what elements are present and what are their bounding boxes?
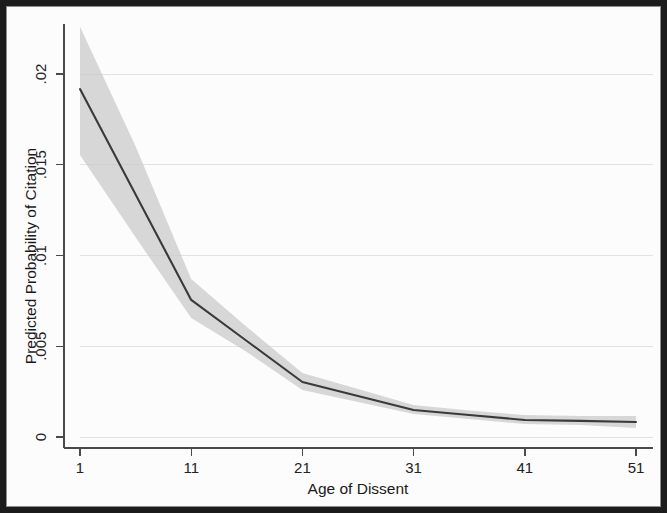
chart-canvas: 0.005.01.015.02 11121314151 Predicted Pr… (0, 0, 667, 513)
y-axis-title: Predicted Probability of Citation (22, 148, 39, 364)
x-tick-label: 21 (294, 459, 311, 476)
confidence-band-group (80, 27, 636, 428)
x-axis-title: Age of Dissent (308, 480, 409, 497)
confidence-interval-band (80, 27, 636, 428)
x-tick-label: 31 (405, 459, 422, 476)
x-tick-label: 1 (76, 459, 84, 476)
x-axis-ticks (80, 448, 636, 456)
x-tick-label: 41 (516, 459, 533, 476)
x-tick-label: 11 (183, 459, 199, 476)
figure-container: 0.005.01.015.02 11121314151 Predicted Pr… (0, 0, 667, 513)
y-tick-label: .02 (32, 64, 49, 85)
x-tick-label: 51 (628, 459, 645, 476)
y-axis-ticks (56, 74, 64, 437)
y-tick-label: 0 (32, 433, 49, 441)
x-axis-tick-labels: 11121314151 (76, 459, 645, 476)
